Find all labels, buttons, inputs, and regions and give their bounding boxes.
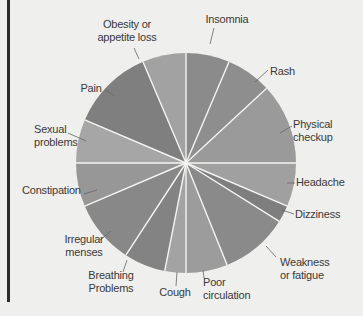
slice-label: Pain (80, 82, 101, 94)
pie-chart: InsomniaRashPhysicalcheckupHeadacheDizzi… (0, 0, 363, 316)
slice-label: Weaknessor fatigue (280, 256, 330, 281)
slice-label: Obesity orappetite loss (97, 18, 157, 43)
slice-label: Sexualproblems (34, 123, 78, 148)
slice-label: Constipation (22, 184, 81, 196)
label-leader-line (210, 28, 214, 44)
slice-label: Rash (270, 65, 295, 77)
label-leader-line (134, 48, 139, 59)
slice-label: BreathingProblems (88, 269, 134, 294)
slice-label: Cough (159, 286, 190, 298)
slice-label: Insomnia (205, 13, 249, 25)
label-leader-line (255, 70, 268, 82)
label-leader-line (176, 272, 177, 286)
slice-label: Poorcirculation (203, 276, 250, 301)
slice-label: Irregularmenses (64, 233, 104, 258)
slice-label: Headache (296, 176, 345, 188)
slice-label: Dizziness (295, 208, 341, 220)
slice-label: Physicalcheckup (293, 118, 333, 143)
label-leader-line (266, 246, 276, 257)
